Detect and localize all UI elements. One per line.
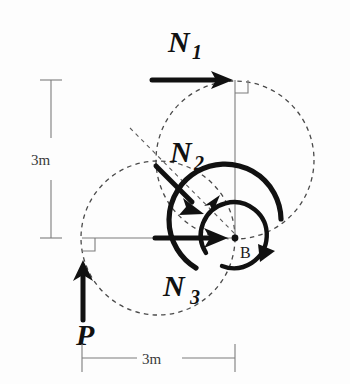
point-b-dot	[232, 235, 239, 242]
force-p-label: P	[75, 318, 95, 351]
force-n1-label: N	[167, 25, 191, 58]
point-b-label: B	[240, 244, 251, 261]
dim-vertical-label: 3m	[31, 152, 51, 168]
force-n2-subscript: 2	[193, 152, 204, 174]
force-n2-label: N	[169, 135, 193, 168]
mechanics-figure: B N 1 N 2 N 3 P 3m	[0, 0, 350, 384]
inner-arc-arrowhead-upper	[204, 195, 220, 212]
force-n3-subscript: 3	[189, 286, 200, 308]
diagram-canvas: B N 1 N 2 N 3 P 3m	[0, 0, 350, 384]
force-n3-label: N	[162, 269, 186, 302]
dim-horizontal-label: 3m	[142, 351, 162, 367]
force-n1-subscript: 1	[192, 41, 202, 63]
right-angle-marker-left	[82, 238, 95, 251]
